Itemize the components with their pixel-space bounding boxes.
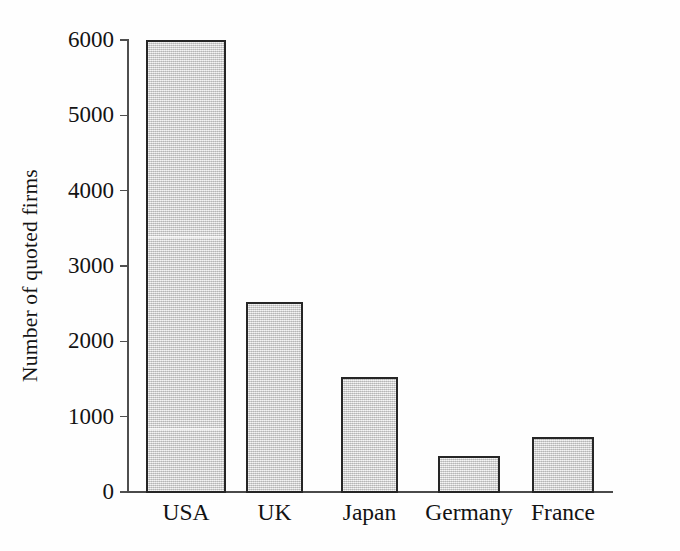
y-tick-mark [120,265,127,267]
y-tick-label: 6000 [0,28,114,51]
bar-uk [246,302,303,493]
y-tick-mark [120,115,127,117]
y-tick-label: 4000 [0,179,114,202]
y-tick-mark [120,39,127,41]
y-tick-mark [120,416,127,418]
y-tick-mark [120,491,127,493]
bar-france [532,437,594,493]
y-tick-mark [120,341,127,343]
y-tick-label: 3000 [0,254,114,277]
x-tick-label-france: France [493,500,633,526]
y-axis-line [127,39,129,493]
bar-germany [438,456,500,493]
bar-usa [146,40,226,493]
y-tick-mark [120,190,127,192]
y-tick-label: 5000 [0,103,114,126]
y-tick-label: 0 [0,480,114,503]
y-tick-label: 2000 [0,329,114,352]
y-tick-label: 1000 [0,405,114,428]
bar-japan [341,377,398,493]
bar-chart: Number of quoted firms 01000200030004000… [0,0,680,551]
